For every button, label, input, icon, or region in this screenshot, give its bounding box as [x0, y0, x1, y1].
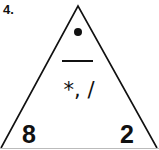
top-dot-icon — [74, 28, 82, 36]
bottom-right-number: 2 — [120, 122, 134, 147]
operations-label: *, / — [55, 80, 103, 101]
fraction-bar-divider — [62, 60, 93, 62]
bottom-left-number: 8 — [22, 122, 36, 147]
